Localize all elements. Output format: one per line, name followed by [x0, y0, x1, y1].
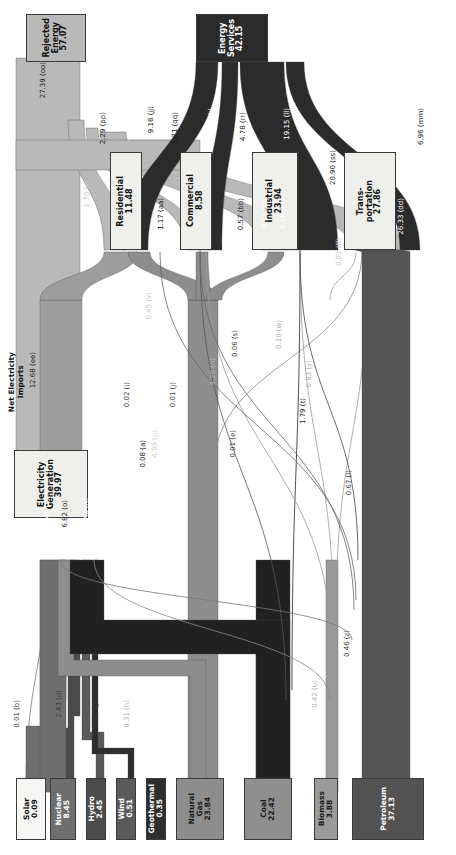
- sankey-node-label: Residential 11.48: [117, 176, 134, 227]
- flow-ribbon: [356, 250, 410, 252]
- sankey-node-rejected_energy[interactable]: Rejected Energy 57.07: [26, 14, 86, 62]
- flow-ribbon: [40, 300, 82, 470]
- flow-ribbon: [206, 252, 284, 300]
- sankey-node-solar[interactable]: Solar 0.09: [16, 778, 46, 840]
- sankey-node-label: Geothermal 0.35: [148, 784, 164, 834]
- sankey-node-label: Nuclear 8.45: [55, 793, 71, 825]
- sankey-node-electricity_generation[interactable]: Electricity Generation 39.97: [14, 450, 88, 518]
- sankey-node-label: Coal 22.42: [260, 797, 276, 821]
- sankey-node-label: Wind 0.51: [118, 798, 134, 820]
- sankey-node-commercial[interactable]: Commercial 8.58: [180, 152, 212, 250]
- sankey-node-residential[interactable]: Residential 11.48: [110, 152, 142, 250]
- sankey-node-label: Energy Services 42.15: [219, 19, 245, 57]
- sankey-node-label: Hydro 2.45: [88, 796, 104, 821]
- sankey-node-label: Industrial 23.94: [266, 179, 283, 223]
- flow-ribbon-thin: [300, 252, 358, 560]
- sankey-node-geothermal[interactable]: Geothermal 0.35: [146, 778, 166, 840]
- sankey-node-label: Natural Gas 23.84: [188, 793, 212, 825]
- sankey-node-transportation[interactable]: Trans- portation 27.86: [344, 152, 396, 250]
- sankey-node-label: Trans- portation 27.86: [357, 180, 383, 222]
- sankey-node-biomass[interactable]: Biomass 3.88: [314, 778, 338, 840]
- sankey-node-coal[interactable]: Coal 22.42: [244, 778, 292, 840]
- sankey-flow-layer: [0, 0, 456, 855]
- sankey-diagram-canvas: Rejected Energy 57.07Energy Services 42.…: [0, 0, 456, 855]
- sankey-node-label: Commercial 8.58: [187, 174, 204, 227]
- label-net_electricity_imports: Net Electricity Imports: [8, 352, 25, 412]
- sankey-node-label: Solar 0.09: [23, 798, 39, 820]
- sankey-node-label: Rejected Energy 57.07: [43, 18, 69, 57]
- sankey-node-label: Biomass 3.88: [318, 791, 334, 826]
- sankey-node-hydro[interactable]: Hydro 2.45: [86, 778, 106, 840]
- sankey-node-label: Electricity Generation 39.97: [38, 459, 64, 509]
- flow-ribbon: [362, 252, 410, 800]
- sankey-node-label: Petroleum 37.13: [380, 787, 396, 831]
- sankey-node-industrial[interactable]: Industrial 23.94: [252, 152, 298, 250]
- flow-ribbon-thin: [330, 252, 356, 300]
- sankey-node-petroleum[interactable]: Petroleum 37.13: [352, 778, 424, 840]
- sankey-node-energy_services[interactable]: Energy Services 42.15: [196, 14, 268, 62]
- sankey-node-natural_gas[interactable]: Natural Gas 23.84: [176, 778, 224, 840]
- flow-ribbon-thin: [200, 252, 354, 610]
- flow-ribbon-thin: [292, 250, 300, 690]
- sankey-node-wind[interactable]: Wind 0.51: [116, 778, 136, 840]
- sankey-node-nuclear[interactable]: Nuclear 8.45: [50, 778, 76, 840]
